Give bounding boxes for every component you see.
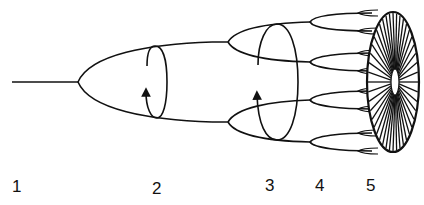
rotation-arrow-icon-large bbox=[257, 24, 298, 140]
stage-label-5: 5 bbox=[366, 177, 375, 194]
radial-disk bbox=[367, 12, 419, 152]
branching-diagram bbox=[0, 0, 424, 205]
branch-level-4 bbox=[310, 13, 372, 151]
stage-label-2: 2 bbox=[152, 180, 161, 197]
rotation-arrow-icon bbox=[146, 46, 167, 118]
stage-label-4: 4 bbox=[315, 177, 324, 194]
stage-label-3: 3 bbox=[265, 177, 274, 194]
branch-level-2 bbox=[78, 42, 212, 122]
stage-label-1: 1 bbox=[12, 178, 21, 195]
disk-center-hole bbox=[391, 69, 399, 95]
